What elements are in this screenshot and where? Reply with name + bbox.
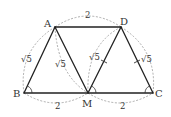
label-A: A [43, 18, 52, 29]
length-AD: 2 [85, 10, 90, 20]
length-MC: 2 [120, 101, 125, 111]
length-BM: 2 [55, 101, 60, 111]
length-AM: √5 [55, 59, 66, 69]
length-DM: √5 [89, 52, 100, 62]
tick-marks [101, 60, 140, 63]
label-C: C [155, 88, 163, 99]
label-D: D [120, 16, 128, 27]
geometry-diagram: A D B M C 2 2 2 √5 √5 √5 √5 [0, 0, 171, 117]
length-DC: √5 [141, 54, 152, 64]
angle-mark-M [92, 86, 97, 93]
length-AB: √5 [21, 54, 32, 64]
angle-mark-C [145, 86, 150, 93]
label-B: B [13, 88, 20, 99]
label-M: M [82, 98, 92, 109]
angle-mark-B [28, 86, 33, 93]
length-labels: 2 2 2 √5 √5 √5 √5 [21, 10, 152, 111]
